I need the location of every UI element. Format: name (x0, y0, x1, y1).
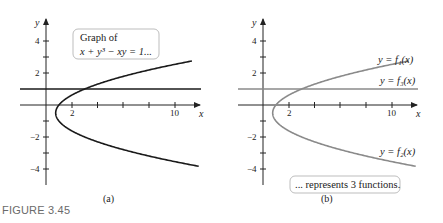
annotation-line2: x + y³ − xy = 1... (79, 46, 152, 57)
annotation-text: ... represents 3 functions. (295, 179, 400, 190)
panel-label-a: (a) (103, 193, 114, 205)
y-tick-4: 4 (252, 36, 257, 46)
annotation-box-a: Graph of x + y³ − xy = 1... (73, 29, 159, 59)
figure-canvas: 2 10 4 2 −2 −4 x y Graph of x + y³ − xy … (0, 0, 443, 223)
y-tick-neg2: −2 (247, 132, 257, 142)
f2-label: y = f₂(x) (379, 146, 416, 158)
y-tick-neg2: −2 (30, 132, 40, 142)
annotation-line1: Graph of (80, 32, 118, 43)
y-tick-2: 2 (35, 68, 40, 78)
x-tick-2: 2 (70, 108, 75, 118)
x-axis-label: x (198, 108, 204, 119)
x-tick-2: 2 (287, 108, 292, 118)
f1-label: y = f₁(x) (377, 54, 414, 66)
y-axis-label: y (34, 17, 40, 28)
y-tick-2: 2 (252, 68, 257, 78)
x-axis-label: x (415, 108, 421, 119)
y-axis-label: y (251, 17, 257, 28)
y-tick-4: 4 (35, 36, 40, 46)
f3-label: y = f₃(x) (379, 75, 416, 87)
figure-caption: FIGURE 3.45 (2, 204, 70, 216)
panel-label-b: (b) (321, 193, 333, 205)
annotation-box-b: ... represents 3 functions. (290, 176, 400, 193)
y-tick-neg4: −4 (30, 164, 40, 174)
panel-a: 2 10 4 2 −2 −4 x y Graph of x + y³ − xy … (20, 17, 204, 205)
x-tick-10: 10 (387, 108, 397, 118)
panel-b: 2 10 4 2 −2 −4 x y y = f₁(x) y = f₃(x) y… (238, 17, 421, 205)
y-tick-neg4: −4 (247, 164, 257, 174)
x-tick-10: 10 (170, 108, 180, 118)
